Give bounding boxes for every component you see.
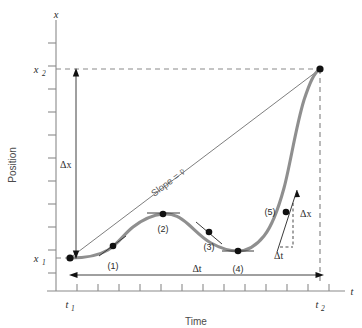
- y-tick-label-x1-subscript: 1: [42, 258, 46, 267]
- delta-x-left-label: Δx: [60, 159, 71, 170]
- x-axis-symbol-label: t: [351, 286, 355, 297]
- position-time-graph-figure: x t x 2 x 1 t 1 t 2 Time Position Δx: [0, 0, 362, 328]
- delta-t-bottom-label: Δt: [192, 263, 201, 274]
- delta-t-bottom-label-text: Δt: [192, 263, 201, 274]
- point-dot-5: [283, 209, 290, 216]
- point-label-3: (3): [204, 242, 215, 252]
- delta-x-tangent-label: Δx: [300, 208, 311, 219]
- y-tick-label-x2-subscript: 2: [42, 69, 46, 78]
- y-tick-label-x1: x 1: [33, 253, 46, 267]
- delta-t-arrowhead-left: [69, 272, 78, 278]
- end-point-dot: [316, 65, 323, 72]
- point-label-1: (1): [108, 261, 119, 271]
- delta-t-tangent-label: Δt: [274, 250, 283, 261]
- y-tick-label-x1-base: x: [33, 253, 39, 264]
- y-axis-ticks: [48, 43, 56, 273]
- y-axis-name-label: Position: [7, 147, 18, 183]
- graph-canvas: x t x 2 x 1 t 1 t 2 Time Position Δx: [0, 0, 362, 328]
- slope-label-prefix: Slope = v̄: [149, 166, 188, 199]
- y-tick-label-x2: x 2: [33, 64, 46, 78]
- point-dot-1: [110, 243, 117, 250]
- slope-prefix-text: Slope =: [149, 169, 184, 199]
- x-tick-label-t2-base: t: [316, 299, 320, 310]
- x-tick-label-t1-subscript: 1: [71, 304, 75, 313]
- point-dot-4: [235, 248, 242, 255]
- slope-label-group: Slope = v̄: [149, 166, 188, 199]
- point-label-4: (4): [233, 264, 244, 274]
- start-point-dot: [66, 254, 73, 261]
- x-axis-name-label: Time: [185, 316, 207, 327]
- x-tick-label-t2-subscript: 2: [321, 304, 325, 313]
- point-dot-2: [160, 211, 167, 218]
- delta-x-left-label-text: Δx: [60, 159, 71, 170]
- x-axis-ticks: [77, 284, 329, 291]
- x-tick-label-t2: t 2: [316, 299, 325, 313]
- delta-x-dimension-left: [73, 68, 79, 259]
- axes-group: [47, 20, 345, 291]
- x-tick-label-t1-base: t: [66, 299, 70, 310]
- y-axis-symbol-label: x: [53, 9, 59, 20]
- x-tick-label-t1: t 1: [66, 299, 75, 313]
- point-dot-3: [206, 229, 213, 236]
- tangent-segments-group: [99, 190, 300, 256]
- point-label-5: (5): [265, 207, 276, 217]
- y-tick-label-x2-base: x: [33, 64, 39, 75]
- point-label-2: (2): [158, 224, 169, 234]
